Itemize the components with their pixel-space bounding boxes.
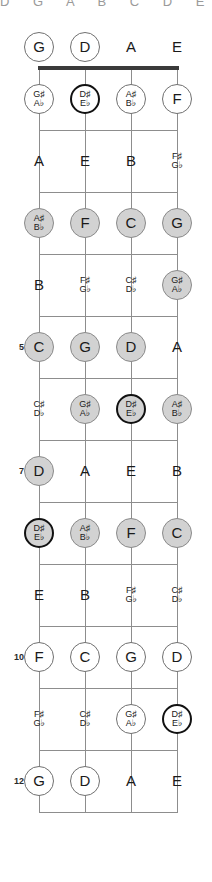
note-3-2-C[interactable]: C (116, 208, 146, 238)
note-3-1-F[interactable]: F (70, 208, 100, 238)
note-4-2-Csharp[interactable]: C♯D♭ (116, 270, 146, 300)
note-0-1-D[interactable]: D (70, 32, 100, 62)
note-2-1-E[interactable]: E (70, 146, 100, 176)
note-1-3-F[interactable]: F (162, 84, 192, 114)
note-flat-name: G♭ (125, 595, 136, 604)
note-4-0-B[interactable]: B (24, 270, 54, 300)
fret-number-7: 7 (2, 466, 24, 476)
note-flat-name: A♭ (172, 285, 182, 294)
fret-line-12 (39, 812, 178, 813)
note-8-0-Dsharp[interactable]: D♯E♭ (24, 518, 54, 548)
note-4-1-Fsharp[interactable]: F♯G♭ (70, 270, 100, 300)
note-flat-name: A♭ (34, 99, 44, 108)
note-4-3-Gsharp[interactable]: G♯A♭ (162, 270, 192, 300)
note-flat-name: A♭ (80, 409, 90, 418)
note-flat-name: E♭ (80, 99, 90, 108)
fret-line-3 (39, 254, 178, 255)
note-flat-name: D♭ (80, 719, 91, 728)
note-6-2-Dsharp[interactable]: D♯E♭ (116, 394, 146, 424)
note-0-2-A[interactable]: A (116, 32, 146, 62)
note-7-2-E[interactable]: E (116, 456, 146, 486)
note-3-0-Asharp[interactable]: A♯B♭ (24, 208, 54, 238)
note-7-0-D[interactable]: D (24, 456, 54, 486)
note-7-1-A[interactable]: A (70, 456, 100, 486)
note-5-0-C[interactable]: C (24, 332, 54, 362)
nut (38, 66, 179, 70)
note-10-3-D[interactable]: D (162, 642, 192, 672)
note-12-2-A[interactable]: A (116, 766, 146, 796)
note-5-1-G[interactable]: G (70, 332, 100, 362)
fret-number-5: 5 (2, 342, 24, 352)
fret-line-7 (39, 502, 178, 503)
fretboard-diagram: 571012GDAEG♯A♭D♯E♭A♯B♭FAEBF♯G♭A♯B♭FCGBF♯… (0, 0, 212, 882)
fret-line-8 (39, 564, 178, 565)
note-flat-name: D♭ (172, 595, 183, 604)
note-0-0-G[interactable]: G (24, 32, 54, 62)
note-flat-name: G♭ (171, 161, 182, 170)
note-9-0-E[interactable]: E (24, 580, 54, 610)
note-7-3-B[interactable]: B (162, 456, 192, 486)
note-flat-name: B♭ (34, 223, 44, 232)
fret-line-9 (39, 626, 178, 627)
note-2-0-A[interactable]: A (24, 146, 54, 176)
note-0-3-E[interactable]: E (162, 32, 192, 62)
note-11-3-Dsharp[interactable]: D♯E♭ (162, 704, 192, 734)
fret-line-1 (39, 130, 178, 131)
note-1-2-Asharp[interactable]: A♯B♭ (116, 84, 146, 114)
note-8-2-F[interactable]: F (116, 518, 146, 548)
fret-number-12: 12 (2, 776, 24, 786)
note-flat-name: G♭ (79, 285, 90, 294)
note-9-2-Fsharp[interactable]: F♯G♭ (116, 580, 146, 610)
note-9-3-Csharp[interactable]: C♯D♭ (162, 580, 192, 610)
fret-line-11 (39, 750, 178, 751)
note-1-0-Gsharp[interactable]: G♯A♭ (24, 84, 54, 114)
note-5-2-D[interactable]: D (116, 332, 146, 362)
note-flat-name: D♭ (34, 409, 45, 418)
note-flat-name: A♭ (126, 719, 136, 728)
fret-line-2 (39, 192, 178, 193)
fret-line-4 (39, 316, 178, 317)
fret-number-10: 10 (2, 652, 24, 662)
note-6-3-Asharp[interactable]: A♯B♭ (162, 394, 192, 424)
note-flat-name: B♭ (172, 409, 182, 418)
fret-line-6 (39, 440, 178, 441)
note-8-3-C[interactable]: C (162, 518, 192, 548)
note-10-2-G[interactable]: G (116, 642, 146, 672)
note-flat-name: B♭ (80, 533, 90, 542)
note-9-1-B[interactable]: B (70, 580, 100, 610)
note-flat-name: D♭ (126, 285, 137, 294)
note-10-1-C[interactable]: C (70, 642, 100, 672)
note-flat-name: G♭ (33, 719, 44, 728)
note-8-1-Asharp[interactable]: A♯B♭ (70, 518, 100, 548)
note-12-3-E[interactable]: E (162, 766, 192, 796)
note-12-1-D[interactable]: D (70, 766, 100, 796)
fret-line-10 (39, 688, 178, 689)
fret-line-5 (39, 378, 178, 379)
note-11-0-Fsharp[interactable]: F♯G♭ (24, 704, 54, 734)
note-3-3-G[interactable]: G (162, 208, 192, 238)
note-2-3-Fsharp[interactable]: F♯G♭ (162, 146, 192, 176)
note-6-0-Csharp[interactable]: C♯D♭ (24, 394, 54, 424)
note-flat-name: B♭ (126, 99, 136, 108)
note-12-0-G[interactable]: G (24, 766, 54, 796)
note-6-1-Gsharp[interactable]: G♯A♭ (70, 394, 100, 424)
note-flat-name: E♭ (172, 719, 182, 728)
note-flat-name: E♭ (34, 533, 44, 542)
note-1-1-Dsharp[interactable]: D♯E♭ (70, 84, 100, 114)
note-flat-name: E♭ (126, 409, 136, 418)
note-2-2-B[interactable]: B (116, 146, 146, 176)
note-5-3-A[interactable]: A (162, 332, 192, 362)
note-11-2-Gsharp[interactable]: G♯A♭ (116, 704, 146, 734)
note-10-0-F[interactable]: F (24, 642, 54, 672)
note-11-1-Csharp[interactable]: C♯D♭ (70, 704, 100, 734)
